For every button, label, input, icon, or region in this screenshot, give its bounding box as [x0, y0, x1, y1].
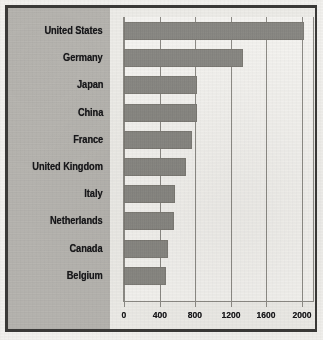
tick-1200 — [231, 302, 232, 307]
category-label-panel: United StatesGermanyJapanChinaFranceUnit… — [8, 8, 110, 329]
category-label-china: China — [78, 107, 103, 118]
bar-canada — [124, 240, 168, 258]
x-tick-label-2000: 2000 — [292, 310, 311, 320]
bar-united-states — [124, 22, 304, 40]
tick-800 — [195, 302, 196, 307]
category-label-japan: Japan — [77, 79, 103, 90]
bar-belgium — [124, 267, 166, 285]
tick-1600 — [266, 302, 267, 307]
bar-china — [124, 104, 197, 122]
category-label-united-states: United States — [45, 25, 103, 36]
category-label-france: France — [73, 134, 103, 145]
bar-france — [124, 131, 192, 149]
chart-screenshot: United StatesGermanyJapanChinaFranceUnit… — [0, 0, 323, 340]
category-label-united-kingdom: United Kingdom — [32, 161, 103, 172]
bar-germany — [124, 49, 243, 67]
x-tick-label-0: 0 — [122, 310, 127, 320]
category-label-canada: Canada — [70, 243, 103, 254]
x-tick-label-800: 800 — [188, 310, 202, 320]
gridline-1600 — [266, 17, 267, 302]
tick-400 — [160, 302, 161, 307]
x-tick-label-1200: 1200 — [221, 310, 240, 320]
bar-japan — [124, 76, 197, 94]
gridline-2000 — [302, 17, 303, 302]
category-label-germany: Germany — [63, 52, 103, 63]
bar-italy — [124, 185, 175, 203]
bar-united-kingdom — [124, 158, 186, 176]
x-tick-label-1600: 1600 — [257, 310, 276, 320]
x-tick-label-400: 400 — [152, 310, 166, 320]
tick-0 — [124, 302, 125, 307]
category-label-netherlands: Netherlands — [50, 215, 103, 226]
category-label-belgium: Belgium — [67, 270, 103, 281]
tick-2000 — [302, 302, 303, 307]
category-label-list: United StatesGermanyJapanChinaFranceUnit… — [8, 8, 110, 329]
category-label-italy: Italy — [85, 188, 103, 199]
bar-netherlands — [124, 212, 174, 230]
plot-area: 0400800120016002000 — [110, 8, 315, 329]
